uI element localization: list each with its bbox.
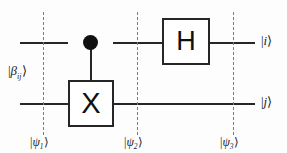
quantum-circuit-diagram: X H |βij⟩ |ψ1⟩ |ψ2⟩ |ψ3⟩ |i⟩ |j⟩ [0,0,287,153]
ket-close-bracket: ⟩ [267,94,272,109]
bottom-qubit-wire-segment-1 [20,103,68,105]
ket-close-bracket: ⟩ [44,135,49,149]
state-label-psi1: |ψ1⟩ [30,136,49,151]
output-label-top: |i⟩ [261,34,272,47]
state-label-psi3: |ψ3⟩ [220,136,239,151]
input-state-label: |βij⟩ [8,64,27,81]
time-slice-marker-2 [137,12,138,135]
ket-close-bracket: ⟩ [234,135,239,149]
state-label-psi2: |ψ2⟩ [124,136,143,151]
ket-close-bracket: ⟩ [138,135,143,149]
cnot-control-dot-icon [83,35,98,50]
state-symbol: ψ [32,135,39,149]
state-symbol: ψ [126,135,133,149]
ket-close-bracket: ⟩ [267,33,272,48]
hadamard-gate: H [162,18,210,65]
top-qubit-wire-segment-1 [20,42,68,44]
output-label-bottom: |j⟩ [261,95,272,108]
ket-close-bracket: ⟩ [22,63,27,78]
time-slice-marker-3 [233,12,234,135]
time-slice-marker-1 [43,12,44,135]
state-symbol: ψ [222,135,229,149]
pauli-x-gate: X [68,80,114,127]
